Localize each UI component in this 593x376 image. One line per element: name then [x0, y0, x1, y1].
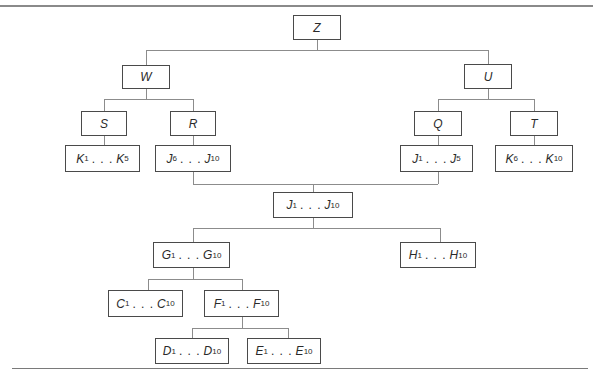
node-label: T — [530, 117, 537, 131]
node-label: R — [189, 117, 198, 131]
range-start: D — [163, 344, 172, 358]
ellipsis: . . . — [426, 152, 448, 166]
node-u: U — [464, 64, 512, 89]
node-h1-h10: H1. . .H10 — [400, 242, 476, 268]
ellipsis: . . . — [92, 152, 114, 166]
range-end: C — [157, 297, 166, 311]
ellipsis: . . . — [300, 198, 322, 212]
ellipsis: . . . — [178, 248, 200, 262]
range-start: H — [409, 248, 418, 262]
ellipsis: . . . — [521, 152, 543, 166]
range-end-sub: 10 — [458, 251, 467, 260]
range-start-sub: 1 — [125, 299, 129, 308]
range-end-sub: 10 — [211, 154, 220, 163]
ellipsis: . . . — [271, 344, 293, 358]
ellipsis: . . . — [228, 297, 250, 311]
range-end-sub: 10 — [304, 347, 313, 356]
range-start: F — [214, 297, 221, 311]
ellipsis: . . . — [180, 152, 202, 166]
range-start: K — [76, 152, 84, 166]
node-j1-j5: J1. . .J5 — [400, 145, 473, 172]
node-label: U — [484, 70, 493, 84]
node-g1-g10: G1. . .G10 — [153, 242, 230, 268]
node-label: S — [100, 117, 108, 131]
range-start: G — [162, 248, 171, 262]
range-start-sub: 1 — [418, 154, 422, 163]
range-start-sub: 1 — [171, 251, 175, 260]
node-d1-d10: D1. . .D10 — [155, 338, 229, 364]
range-end-sub: 5 — [456, 154, 460, 163]
range-end-sub: 10 — [260, 299, 269, 308]
ellipsis: . . . — [132, 297, 154, 311]
range-end: E — [296, 344, 304, 358]
range-start: E — [255, 344, 263, 358]
range-end: K — [116, 152, 124, 166]
node-s: S — [81, 111, 127, 136]
range-end-sub: 10 — [331, 201, 340, 210]
range-end-sub: 5 — [124, 154, 128, 163]
ellipsis: . . . — [179, 344, 201, 358]
tree-connectors — [0, 0, 593, 376]
range-start: K — [505, 152, 513, 166]
node-j6-j10: J6. . .J10 — [155, 145, 231, 172]
range-start-sub: 1 — [417, 251, 421, 260]
range-end: D — [204, 344, 213, 358]
range-start-sub: 6 — [513, 154, 517, 163]
range-start: C — [116, 297, 125, 311]
range-end-sub: 10 — [212, 347, 221, 356]
ellipsis: . . . — [425, 248, 447, 262]
node-k1-k5: K1. . .K5 — [65, 145, 140, 172]
range-start-sub: 6 — [172, 154, 176, 163]
node-c1-c10: C1. . .C10 — [108, 290, 183, 317]
range-start-sub: 1 — [292, 201, 296, 210]
node-label: Q — [433, 117, 442, 131]
node-t: T — [510, 111, 558, 136]
node-k6-k10: K6. . .K10 — [495, 145, 573, 172]
range-end: H — [450, 248, 459, 262]
node-z: Z — [293, 15, 341, 40]
range-end: K — [546, 152, 554, 166]
node-label: Z — [313, 21, 320, 35]
node-q: Q — [414, 111, 462, 136]
range-end-sub: 10 — [554, 154, 563, 163]
node-e1-e10: E1. . .E10 — [247, 338, 321, 364]
range-start-sub: 1 — [221, 299, 225, 308]
range-start-sub: 1 — [171, 347, 175, 356]
node-w: W — [122, 65, 170, 89]
node-j1-j10: J1. . .J10 — [273, 192, 353, 218]
range-end: F — [253, 297, 260, 311]
range-end-sub: 10 — [166, 299, 175, 308]
range-start-sub: 1 — [84, 154, 88, 163]
node-f1-f10: F1. . .F10 — [204, 290, 279, 317]
node-r: R — [170, 111, 216, 136]
node-label: W — [140, 70, 151, 84]
range-start-sub: 1 — [263, 347, 267, 356]
range-end: G — [203, 248, 212, 262]
range-end-sub: 10 — [212, 251, 221, 260]
